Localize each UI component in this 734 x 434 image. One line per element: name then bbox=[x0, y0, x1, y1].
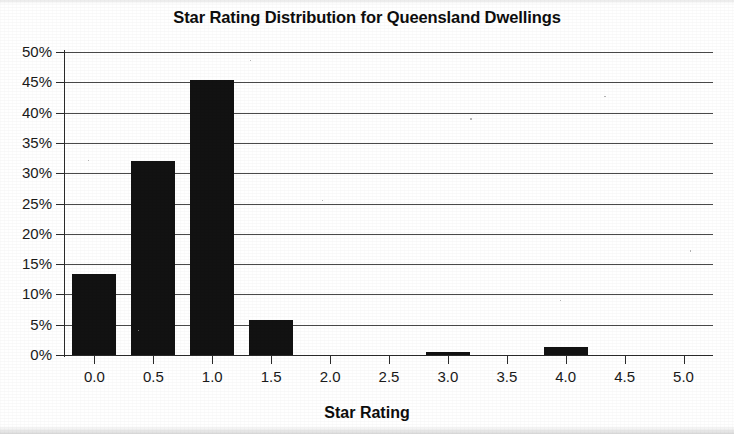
y-axis-tick bbox=[56, 52, 65, 53]
y-axis-tick bbox=[56, 325, 65, 326]
x-axis-tick-label: 4.0 bbox=[535, 368, 597, 385]
y-axis-tick-label: 15% bbox=[0, 255, 52, 272]
x-axis-tick-label: 0.5 bbox=[122, 368, 184, 385]
y-axis-tick-label: 40% bbox=[0, 104, 52, 121]
bar bbox=[544, 347, 588, 355]
y-axis-tick bbox=[56, 113, 65, 114]
y-axis-tick-label: 45% bbox=[0, 73, 52, 90]
gridline bbox=[65, 113, 713, 114]
x-axis-tick-label: 0.0 bbox=[63, 368, 125, 385]
bar bbox=[131, 161, 175, 355]
y-axis-tick-label: 20% bbox=[0, 225, 52, 242]
y-axis-tick-label: 30% bbox=[0, 164, 52, 181]
y-axis-tick bbox=[56, 294, 65, 295]
chart-title: Star Rating Distribution for Queensland … bbox=[0, 8, 734, 27]
y-axis-tick-label: 25% bbox=[0, 195, 52, 212]
y-axis-tick bbox=[56, 204, 65, 205]
gridline bbox=[65, 82, 713, 83]
chart-figure: Star Rating Distribution for Queensland … bbox=[0, 0, 734, 434]
x-axis-tick bbox=[330, 355, 331, 364]
gridline bbox=[65, 52, 713, 53]
x-axis-tick-label: 1.5 bbox=[240, 368, 302, 385]
x-axis-tick bbox=[94, 355, 95, 364]
x-axis-tick bbox=[389, 355, 390, 364]
bar bbox=[249, 320, 293, 355]
x-axis-tick-label: 3.5 bbox=[476, 368, 538, 385]
x-axis-tick bbox=[684, 355, 685, 364]
x-axis-tick-label: 1.0 bbox=[181, 368, 243, 385]
y-axis-tick-label: 10% bbox=[0, 285, 52, 302]
x-axis-tick-label: 4.5 bbox=[594, 368, 656, 385]
y-axis-tick bbox=[56, 143, 65, 144]
scan-edge-shade-bottom bbox=[0, 426, 734, 434]
bar bbox=[72, 274, 116, 355]
y-axis-tick bbox=[56, 82, 65, 83]
x-axis-tick-label: 2.0 bbox=[299, 368, 361, 385]
y-axis-tick bbox=[56, 355, 65, 356]
gridline bbox=[65, 143, 713, 144]
y-axis-tick bbox=[56, 234, 65, 235]
y-axis-tick-label: 35% bbox=[0, 134, 52, 151]
y-axis-tick-label: 50% bbox=[0, 43, 52, 60]
y-axis-tick-label: 5% bbox=[0, 316, 52, 333]
x-axis-tick bbox=[507, 355, 508, 364]
bar bbox=[190, 80, 234, 355]
x-axis-title: Star Rating bbox=[0, 404, 734, 422]
x-axis-tick bbox=[448, 355, 449, 364]
y-axis-tick bbox=[56, 264, 65, 265]
x-axis-tick bbox=[153, 355, 154, 364]
y-axis-tick-label: 0% bbox=[0, 346, 52, 363]
x-axis-tick bbox=[212, 355, 213, 364]
x-axis-tick-label: 5.0 bbox=[653, 368, 715, 385]
y-axis-tick bbox=[56, 173, 65, 174]
scan-edge-shade-top bbox=[0, 0, 734, 4]
x-axis-tick bbox=[566, 355, 567, 364]
y-axis-tick-labels: 0%5%10%15%20%25%30%35%40%45%50% bbox=[0, 52, 52, 355]
x-axis-tick-label: 3.0 bbox=[417, 368, 479, 385]
x-axis-tick bbox=[625, 355, 626, 364]
x-axis-tick bbox=[271, 355, 272, 364]
x-axis-tick-label: 2.5 bbox=[358, 368, 420, 385]
plot-area bbox=[65, 52, 713, 355]
